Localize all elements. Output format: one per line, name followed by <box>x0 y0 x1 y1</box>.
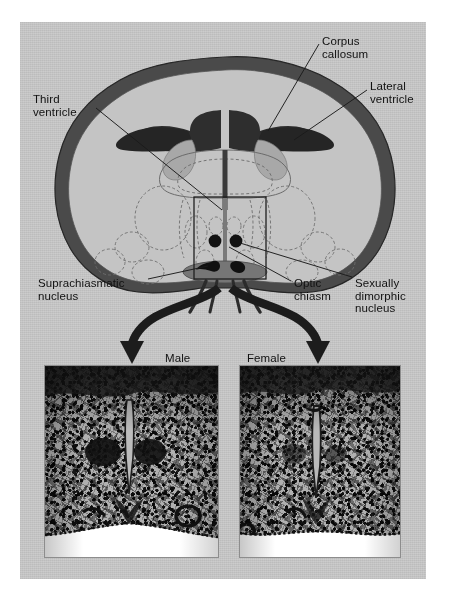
label-suprachiasmatic-nucleus: Suprachiasmatic nucleus <box>38 277 125 302</box>
micrograph-female <box>240 366 400 557</box>
optic-chiasm-body <box>183 261 267 283</box>
label-third-ventricle: Third ventricle <box>33 93 77 118</box>
label-sexually-dimorphic-nucleus: Sexually dimorphic nucleus <box>355 277 406 315</box>
brain-cross-section <box>55 57 395 312</box>
arrow-to-male-panel <box>131 288 219 348</box>
sexually-dimorphic-nucleus-left <box>209 235 222 248</box>
female-side-shading <box>240 366 400 557</box>
third-ventricle-lower <box>223 198 227 262</box>
label-lateral-ventricle: Lateral ventricle <box>370 80 414 105</box>
caption-female-panel: Female <box>247 352 286 365</box>
arrowhead-female <box>306 341 330 364</box>
caption-male-panel: Male <box>165 352 190 365</box>
figure-root: Corpus callosum Lateral ventricle Third … <box>0 0 450 601</box>
label-optic-chiasm: Optic chiasm <box>294 277 331 302</box>
sexually-dimorphic-nucleus-right <box>230 235 243 248</box>
male-side-shading <box>45 366 218 557</box>
micrograph-male <box>45 366 218 557</box>
label-corpus-callosum: Corpus callosum <box>322 35 368 60</box>
arrowhead-male <box>120 341 144 364</box>
